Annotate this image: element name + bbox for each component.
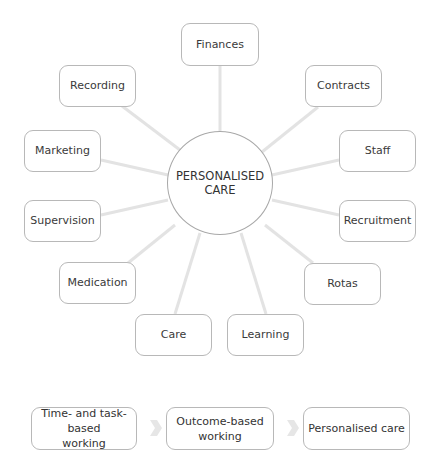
flow-step-time-task-based: Time- and task-based working <box>31 407 137 450</box>
line-recording <box>122 106 180 150</box>
flow-line-2: working <box>35 436 133 451</box>
node-label: Staff <box>365 144 391 158</box>
arrow-right-icon <box>287 420 299 436</box>
line-medication <box>128 225 175 263</box>
node-label: Finances <box>196 38 244 52</box>
node-recruitment: Recruitment <box>339 200 416 242</box>
line-contracts <box>262 107 318 152</box>
node-rotas: Rotas <box>304 263 381 305</box>
node-label: Learning <box>242 328 290 342</box>
line-marketing <box>101 160 168 175</box>
node-supervision: Supervision <box>24 200 101 242</box>
flow-line-1: Personalised care <box>308 421 405 436</box>
node-recording: Recording <box>59 65 136 107</box>
flow-line-2: working <box>176 429 263 444</box>
node-label: Care <box>161 328 186 342</box>
personalised-care-hub: PERSONALISED CARE <box>167 131 273 235</box>
line-supervision <box>101 200 168 215</box>
node-medication: Medication <box>59 262 136 304</box>
node-label: Marketing <box>35 144 90 158</box>
line-learning <box>241 233 266 314</box>
line-care <box>175 233 200 314</box>
hub-line-2: CARE <box>176 183 264 197</box>
arrow-right-icon <box>150 420 162 436</box>
flow-line-1: Time- and task-based <box>35 406 133 436</box>
flow-line-1: Outcome-based <box>176 414 263 429</box>
line-rotas <box>265 225 313 263</box>
node-finances: Finances <box>181 23 259 66</box>
line-recruitment <box>272 200 339 215</box>
node-label: Rotas <box>327 277 358 291</box>
node-label: Supervision <box>30 214 94 228</box>
node-care: Care <box>135 314 212 356</box>
node-contracts: Contracts <box>305 65 382 107</box>
flow-step-personalised-care: Personalised care <box>303 407 410 450</box>
node-marketing: Marketing <box>24 130 101 172</box>
node-label: Contracts <box>317 79 370 93</box>
node-label: Medication <box>67 276 127 290</box>
flow-step-outcome-based: Outcome-based working <box>166 407 274 450</box>
node-label: Recording <box>70 79 125 93</box>
line-staff <box>272 160 339 175</box>
node-label: Recruitment <box>344 214 412 228</box>
node-learning: Learning <box>227 314 304 356</box>
node-staff: Staff <box>339 130 416 172</box>
hub-line-1: PERSONALISED <box>176 169 264 183</box>
